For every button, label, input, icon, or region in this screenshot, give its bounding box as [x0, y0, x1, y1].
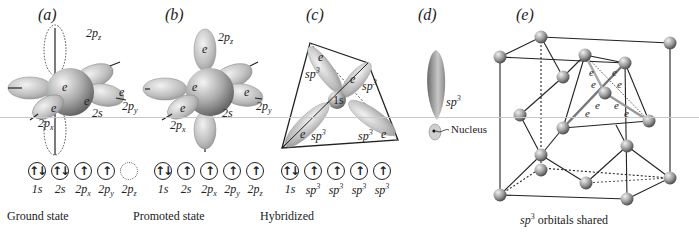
panel-e-electron: e	[614, 99, 619, 111]
spin-arrows-icon: ↑	[177, 162, 195, 180]
panel-b-label: (b)	[165, 6, 184, 24]
panel-e-electron: e	[589, 66, 594, 78]
panel-a-2py-label: 2py	[122, 99, 138, 115]
orbital-label: 2py	[96, 182, 116, 198]
orbital-box: ↑2py	[96, 162, 116, 198]
panel-b-electron: e	[202, 42, 207, 57]
orbital-box: ↑2pz	[245, 162, 265, 198]
orbital-label: 1s	[280, 182, 300, 197]
orbital-box: ↑↓1s	[153, 162, 173, 198]
spin-arrows-icon: ↑	[246, 162, 264, 180]
orbital-box: 2pz	[119, 162, 139, 198]
horizontal-guide-line	[0, 117, 699, 118]
panel-e-electron: e	[595, 99, 600, 111]
orbital-label: 1s	[27, 182, 47, 197]
panel-d-sp3-label: sp3	[446, 94, 461, 110]
orbital-label: 2s	[50, 182, 70, 197]
panel-c-sp3-label: sp3	[362, 78, 377, 94]
orbital-box: ↑2px	[73, 162, 93, 198]
spin-arrows-icon: ↑	[304, 162, 322, 180]
orbital-box-row: ↑↓1s↑↓2s↑2px↑2py2pz	[27, 162, 139, 198]
orbital-box: ↑↓1s	[280, 162, 300, 198]
panel-d-nucleus-label: Nucleus	[451, 123, 487, 135]
panel-c-label: (c)	[306, 6, 324, 24]
panel-e-label: (e)	[516, 6, 534, 24]
orbital-box: ↑sp3	[326, 162, 346, 198]
panel-b-2pz-label: 2pz	[218, 30, 233, 46]
panel-b-electron: e	[192, 80, 197, 95]
spin-arrows-icon: ↑	[200, 162, 218, 180]
panel-b-electron: e	[180, 101, 185, 116]
panel-c-sp3-label: sp3	[311, 128, 326, 144]
spin-arrows-icon: ↑	[223, 162, 241, 180]
panel-e-electron: e	[624, 107, 629, 119]
orbital-box: ↑sp3	[372, 162, 392, 198]
orbital-box: ↑sp3	[349, 162, 369, 198]
orbital-label: 2px	[73, 182, 93, 198]
panel-c-sp3-label: sp3	[358, 128, 373, 144]
panel-d-label: (d)	[418, 6, 437, 24]
orbital-box: ↑2py	[222, 162, 242, 198]
orbital-box-row: ↑↓1s↑2s↑2px↑2py↑2pz	[153, 162, 265, 198]
panel-c-electron: e	[318, 50, 323, 65]
orbital-box: ↑2s	[176, 162, 196, 198]
panel-a-electron: e	[84, 94, 89, 109]
panel-a-2pz-label: 2pz	[86, 26, 101, 42]
orbital-label: sp3	[349, 182, 369, 198]
orbital-box: ↑↓2s	[50, 162, 70, 198]
spin-arrows-icon: ↑	[327, 162, 345, 180]
panel-a-electron: e	[51, 101, 56, 116]
spin-arrows-icon: ↑	[373, 162, 391, 180]
panel-c-sp3-label: sp3	[305, 66, 320, 82]
orbital-label: 2px	[199, 182, 219, 198]
orbital-box: ↑sp3	[303, 162, 323, 198]
panel-b-electron: e	[244, 85, 249, 100]
panel-c-electron: e	[350, 72, 355, 87]
panel-b-2px-label: 2px	[170, 118, 186, 134]
panel-c-electron: e	[381, 127, 386, 142]
panel-e-electron: e	[591, 78, 596, 90]
orbital-box: ↑↓1s	[27, 162, 47, 198]
empty-orbital-circle	[120, 162, 138, 180]
orbital-label: sp3	[326, 182, 346, 198]
panel-a-electron: e	[62, 80, 67, 95]
orbital-box-row: ↑↓1s↑sp3↑sp3↑sp3↑sp3	[280, 162, 392, 198]
orbital-label: sp3	[303, 182, 323, 198]
panel-a-label: (a)	[38, 6, 57, 24]
panel-b-2s-label: 2s	[222, 106, 233, 121]
configuration-caption: Hybridized	[260, 209, 314, 224]
spin-arrows-icon: ↑↓	[51, 162, 69, 180]
panel-a-2s-label: 2s	[92, 106, 103, 121]
panel-c-electron: e	[300, 127, 305, 142]
spin-arrows-icon: ↑	[97, 162, 115, 180]
panel-e-electron: e	[617, 78, 622, 90]
orbital-label: sp3	[372, 182, 392, 198]
orbital-label: 1s	[153, 182, 173, 197]
panel-a-2px-label: 2px	[38, 116, 54, 132]
panel-b-2py-label: 2py	[256, 99, 272, 115]
diagram-graphics	[0, 0, 699, 238]
panel-e-electron: e	[585, 107, 590, 119]
orbital-box: ↑2px	[199, 162, 219, 198]
orbital-label: 2pz	[119, 182, 139, 198]
sp3-hybridization-diagram: (a) (b) (c) (d) (e) 2pz 2py 2px 2s e e e…	[0, 0, 699, 238]
orbital-label: 2py	[222, 182, 242, 198]
configuration-caption: Promoted state	[133, 209, 205, 224]
configuration-caption: Ground state	[7, 209, 69, 224]
panel-e-caption: sp3 orbitals shared	[520, 212, 608, 228]
spin-arrows-icon: ↑↓	[28, 162, 46, 180]
spin-arrows-icon: ↑↓	[154, 162, 172, 180]
spin-arrows-icon: ↑↓	[281, 162, 299, 180]
panel-e-electron: e	[612, 66, 617, 78]
orbital-label: 2s	[176, 182, 196, 197]
spin-arrows-icon: ↑	[74, 162, 92, 180]
panel-a-electron: e	[119, 85, 124, 100]
orbital-label: 2pz	[245, 182, 265, 198]
spin-arrows-icon: ↑	[350, 162, 368, 180]
panel-c-1s-label: 1s	[333, 93, 344, 108]
